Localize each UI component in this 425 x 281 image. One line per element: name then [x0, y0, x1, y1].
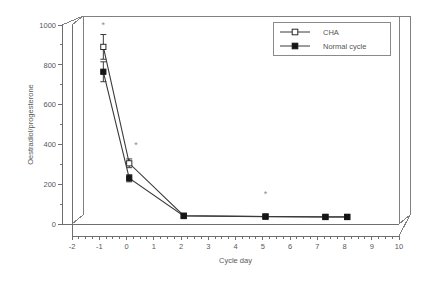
y-axis-tick-label: 200: [43, 180, 56, 189]
series-line: [103, 47, 347, 217]
y-axis-title: Oestradiol/progesterone: [26, 84, 35, 164]
x-axis-tick-label: 3: [206, 242, 210, 251]
series-line: [103, 72, 347, 217]
legend-label: Normal cycle: [323, 42, 366, 51]
data-point-marker: [345, 214, 350, 219]
x-axis-tick-label: 6: [288, 242, 292, 251]
x-axis-title: Cycle day: [219, 256, 252, 265]
y-axis-tick-label: 1000: [39, 21, 56, 30]
chart-figure: 02004006008001000-2-1012345678910Cycle d…: [0, 0, 425, 281]
x-axis-tick-label: 9: [370, 242, 374, 251]
legend-sample-marker: [292, 29, 298, 35]
significance-asterisk: *: [264, 189, 268, 199]
legend-sample-marker: [292, 43, 298, 49]
data-point-marker: [181, 213, 186, 218]
data-point-marker: [101, 69, 106, 74]
x-axis-tick-label: -1: [96, 242, 103, 251]
y-axis-tick-label: 600: [43, 100, 56, 109]
y-axis-top-joint: [62, 16, 83, 25]
data-point-marker: [127, 176, 132, 181]
x-axis-tick-label: 2: [179, 242, 183, 251]
x-axis-tick-label: 0: [124, 242, 128, 251]
significance-asterisk: *: [102, 20, 106, 30]
x-axis-tick-label: 8: [342, 242, 346, 251]
frame-connector-bottom-right: [399, 215, 410, 224]
x-axis-tick-label: 10: [395, 242, 403, 251]
x-axis-tick-label: 5: [261, 242, 265, 251]
series-cha: [100, 35, 349, 220]
data-point-marker: [323, 214, 328, 219]
x-axis-tick-label: 7: [315, 242, 319, 251]
y-axis-tick-label: 800: [43, 61, 56, 70]
chart-canvas: 02004006008001000-2-1012345678910Cycle d…: [0, 0, 425, 281]
frame-connector-bottom-left: [72, 215, 83, 224]
significance-asterisk: *: [134, 140, 138, 150]
x-axis-tick-label: 4: [233, 242, 237, 251]
data-point-marker: [263, 214, 268, 219]
data-point-marker: [101, 44, 106, 49]
x-axis-tick-label: -2: [69, 242, 76, 251]
x-axis-right-joint: [399, 215, 410, 236]
y-axis-tick-label: 0: [52, 220, 56, 229]
y-axis-tick-label: 400: [43, 140, 56, 149]
data-point-marker: [127, 161, 132, 166]
legend-label: CHA: [323, 28, 339, 37]
x-axis-tick-label: 1: [152, 242, 156, 251]
